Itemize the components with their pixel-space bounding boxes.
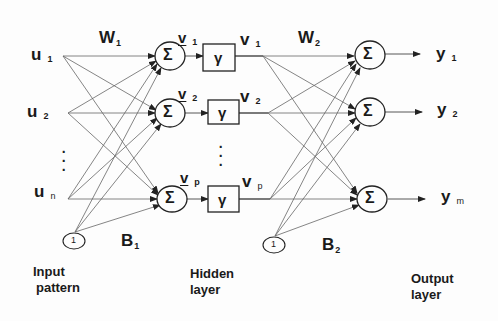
hidden-ellipsis: ··· [218, 143, 224, 170]
bias-b2: B2 [322, 236, 340, 253]
caption-input-pattern: Input pattern [33, 264, 80, 296]
bias-nodes [63, 233, 285, 253]
hidden-net-vp: vp [180, 170, 200, 185]
sum-symbol: Σ [363, 103, 373, 119]
input-u2: u2 [27, 103, 48, 120]
sum-symbol: Σ [165, 190, 175, 206]
w1-connections [63, 56, 161, 232]
hidden-output-v1: v1 [240, 31, 260, 48]
bias-b1: B1 [121, 232, 139, 249]
output-sum-nodes [355, 41, 387, 212]
hidden-output-v2: v2 [240, 88, 260, 105]
sum-symbol: Σ [363, 46, 373, 62]
output-arrows [385, 54, 425, 199]
sum-symbol: Σ [163, 47, 173, 63]
output-y2: y2 [437, 101, 457, 118]
caption-hidden-layer: Hidden layer [190, 266, 234, 298]
input-ellipsis: ··· [61, 148, 67, 175]
hidden-sum-nodes [155, 42, 187, 212]
activation-symbol: γ [218, 105, 226, 120]
sum-symbol: Σ [365, 190, 375, 206]
activation-symbol: γ [218, 192, 226, 207]
hidden-output-vp: vp [242, 173, 262, 190]
bias-node-label: 1 [71, 236, 76, 245]
bias-node-label: 1 [271, 240, 276, 249]
activation-symbol: γ [214, 50, 222, 65]
activation-boxes [203, 44, 239, 212]
caption-output-layer: Output layer [411, 271, 454, 303]
sum-symbol: Σ [163, 104, 173, 120]
hidden-net-v2: v2 [178, 86, 197, 101]
output-ym: ym [441, 188, 464, 205]
w2-connections [263, 56, 360, 236]
weight-w1: W1 [99, 29, 121, 46]
hidden-net-v1: v1 [178, 30, 197, 45]
neural-network-diagram: Σ Σ Σ Σ Σ Σ γ γ γ 1 1 u1 u2 ··· un W1 W2… [0, 0, 498, 321]
input-u1: u1 [31, 46, 52, 63]
weight-w2: W2 [298, 29, 320, 46]
input-un: un [34, 183, 55, 200]
output-y1: y1 [436, 45, 456, 62]
